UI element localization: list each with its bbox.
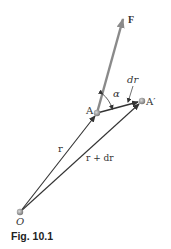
displacement-vector-dr	[97, 102, 138, 113]
displacement-label: dr	[127, 75, 138, 85]
position-vector-r-plus-dr	[20, 104, 139, 212]
position-r-plus-dr-label: r + dr	[86, 154, 114, 163]
position-vector-r	[20, 116, 95, 212]
dr-leader-line	[128, 86, 133, 102]
origin-O-marker	[17, 209, 23, 215]
point-A-prime-label: A′	[146, 97, 156, 107]
angle-alpha-label: α	[113, 89, 120, 99]
figure-caption: Fig. 10.1	[11, 231, 53, 242]
point-A-label: A	[86, 106, 93, 116]
point-A-marker	[94, 110, 100, 116]
work-of-force-figure: F A A′ α dr r r + dr O Fig. 10.1	[0, 0, 171, 249]
origin-O-label: O	[16, 217, 24, 227]
angle-alpha-arc	[103, 94, 113, 109]
position-r-label: r	[58, 144, 63, 154]
vector-diagram	[0, 0, 171, 249]
force-label: F	[128, 15, 134, 25]
point-A-prime-marker	[139, 98, 145, 104]
